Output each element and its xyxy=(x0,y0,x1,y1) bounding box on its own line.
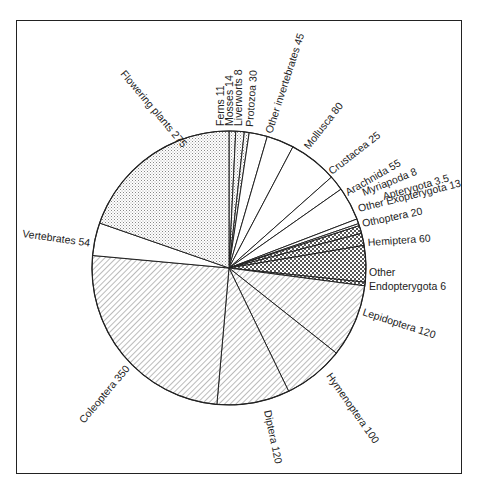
label-mollusca: Mollusca 80 xyxy=(301,100,345,152)
label-other-endopterygota-2: Endopterygota 6 xyxy=(369,280,446,292)
label-lepidoptera: Lepidoptera 120 xyxy=(361,305,437,340)
label-hymenoptera: Hymenoptera 100 xyxy=(324,370,382,445)
label-liverworts: Liverworts 8 xyxy=(232,69,244,126)
label-other-endopterygota-1: Other xyxy=(369,266,396,278)
label-flowering-plants: Flowering plants 275 xyxy=(118,68,190,150)
label-protozoa: Protozoa 30 xyxy=(243,70,259,127)
label-hemiptera: Hemiptera 60 xyxy=(367,232,431,248)
label-vertebrates: Vertebrates 54 xyxy=(22,227,91,248)
label-coleoptera: Coleoptera 350 xyxy=(76,362,131,425)
label-diptera: Diptera 120 xyxy=(262,409,285,465)
pie-chart: Ferns 11 Mosses 14 Liverworts 8 Protozoa… xyxy=(0,0,479,495)
pie-slices xyxy=(92,131,366,405)
label-other-invertebrates: Other invertebrates 45 xyxy=(262,31,306,134)
